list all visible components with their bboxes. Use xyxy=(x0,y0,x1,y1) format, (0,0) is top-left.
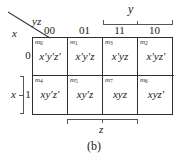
column-header-00: 00 xyxy=(32,24,67,37)
x-variable-brace xyxy=(19,76,25,114)
minterm-expression-m5: xy′z xyxy=(68,88,102,101)
z-variable-label: z xyxy=(99,124,103,135)
kmap-cell-m0[interactable]: m0 x′y′z′ xyxy=(33,38,68,76)
minterm-expression-m1: x′y′z xyxy=(68,50,102,63)
x-brace-bottom-tip xyxy=(20,113,24,114)
column-header-01: 01 xyxy=(67,24,102,37)
karnaugh-map-figure: y yz x 00 01 11 10 0 1 x m0 x′y′z′ m1 x′… xyxy=(0,0,188,163)
row-header-1: 1 xyxy=(24,89,32,100)
minterm-expression-m2: x′yz′ xyxy=(138,50,174,63)
minterm-expression-m4: xy′z′ xyxy=(33,88,67,101)
kmap-cell-m6[interactable]: m6 xyz′ xyxy=(138,76,174,115)
minterm-label-m7: m7 xyxy=(105,76,113,85)
kmap-cell-m3[interactable]: m3 x′yz xyxy=(103,38,138,76)
minterm-label-m3: m3 xyxy=(105,38,113,47)
x-brace-center-nub xyxy=(19,95,23,96)
minterm-label-m6: m6 xyxy=(140,76,148,85)
row-header-0: 0 xyxy=(24,50,32,61)
kmap-cell-m4[interactable]: m4 xy′z′ xyxy=(33,76,68,115)
z-brace-left-tip xyxy=(67,119,68,124)
minterm-expression-m0: x′y′z′ xyxy=(33,50,67,63)
corner-row-var-label: x xyxy=(12,28,17,39)
minterm-expression-m3: x′yz xyxy=(103,50,137,63)
kmap-cell-m5[interactable]: m5 xy′z xyxy=(68,76,103,115)
kmap-grid: m0 x′y′z′ m1 x′y′z m3 x′yz m2 x′yz′ m4 x… xyxy=(32,37,173,115)
minterm-expression-m6: xyz′ xyxy=(138,88,174,101)
x-brace-bar xyxy=(23,76,24,114)
column-header-10: 10 xyxy=(137,24,172,37)
column-header-11: 11 xyxy=(102,24,137,37)
kmap-cell-m1[interactable]: m1 x′y′z xyxy=(68,38,103,76)
x-brace-top-tip xyxy=(20,76,24,77)
minterm-label-m0: m0 xyxy=(35,38,43,47)
z-brace-right-tip xyxy=(137,119,138,124)
minterm-label-m1: m1 xyxy=(70,38,78,47)
minterm-label-m4: m4 xyxy=(35,76,43,85)
x-variable-label: x xyxy=(11,89,16,100)
column-headers: 00 01 11 10 xyxy=(32,24,173,37)
minterm-expression-m7: xyz xyxy=(103,88,137,101)
minterm-label-m5: m5 xyxy=(70,76,78,85)
minterm-label-m2: m2 xyxy=(140,38,148,47)
kmap-cell-m7[interactable]: m7 xyz xyxy=(103,76,138,115)
figure-caption: (b) xyxy=(0,139,188,153)
kmap-cell-m2[interactable]: m2 x′yz′ xyxy=(138,38,174,76)
y-variable-label: y xyxy=(128,3,133,15)
